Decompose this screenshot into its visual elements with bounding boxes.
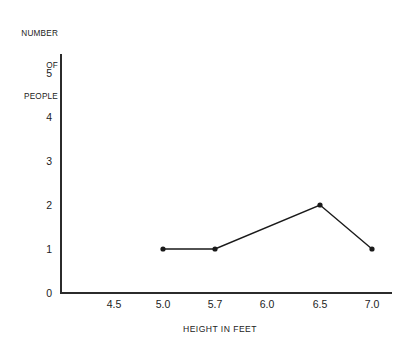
- data-point-marker: [317, 202, 322, 207]
- x-axis-title: HEIGHT IN FEET: [0, 324, 412, 334]
- x-axis-title-text: HEIGHT IN FEET: [183, 324, 257, 334]
- data-point-marker: [212, 246, 217, 251]
- data-series-line: [163, 205, 372, 249]
- data-point-marker: [160, 246, 165, 251]
- data-point-marker: [369, 246, 374, 251]
- line-chart: NUMBER OF PEOPLE 0 1 2 3 4 5 4.5 5.0 5.7…: [0, 0, 412, 351]
- plot-area: [0, 0, 412, 351]
